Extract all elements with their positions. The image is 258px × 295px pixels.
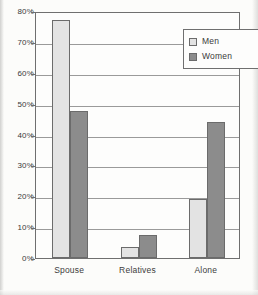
legend-item-men: Men	[189, 34, 258, 49]
plot-area: Men Women	[35, 12, 240, 259]
legend-item-women: Women	[189, 49, 258, 64]
y-axis-tick-label: 50%	[4, 101, 34, 109]
bar-alone-men	[189, 199, 207, 258]
y-axis-tick-label: 10%	[4, 224, 34, 232]
y-axis-tick-label: 40%	[4, 132, 34, 140]
y-axis-tick-label: 30%	[4, 162, 34, 170]
legend-label-men: Men	[202, 37, 219, 46]
legend-label-women: Women	[202, 52, 232, 61]
y-axis-tick-label: 80%	[4, 8, 34, 16]
chart-page: 0%10%20%30%40%50%60%70%80% Men Women Spo…	[0, 0, 258, 295]
scan-edge-bottom	[0, 290, 258, 295]
legend-swatch-men-icon	[189, 38, 197, 46]
bar-relatives-women	[139, 235, 157, 258]
bar-spouse-men	[52, 20, 70, 258]
y-axis-tick-label: 70%	[4, 39, 34, 47]
bar-spouse-women	[70, 111, 88, 258]
y-axis-tick-label: 20%	[4, 193, 34, 201]
bar-alone-women	[207, 122, 225, 258]
y-axis-tick-label: 0%	[4, 255, 34, 263]
legend-swatch-women-icon	[189, 53, 197, 61]
bar-relatives-men	[121, 247, 139, 258]
x-axis-label-alone: Alone	[166, 266, 246, 275]
y-axis-tick-label: 60%	[4, 70, 34, 78]
y-axis-tick-mark	[31, 259, 35, 260]
chart-legend: Men Women	[183, 29, 258, 69]
